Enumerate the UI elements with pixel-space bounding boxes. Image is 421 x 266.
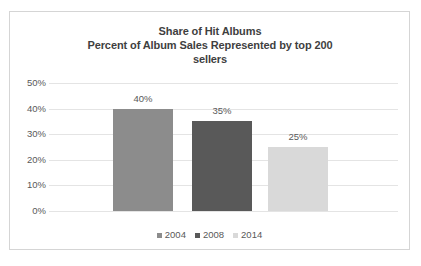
y-axis-tick-label: 0% — [10, 206, 46, 216]
legend-item-2004[interactable]: 2004 — [157, 230, 186, 240]
y-axis: 0%10%20%30%40%50% — [10, 72, 46, 222]
legend-item-2014[interactable]: 2014 — [233, 230, 262, 240]
y-axis-tick-label: 20% — [10, 155, 46, 165]
legend-item-label: 2004 — [165, 230, 186, 240]
bar-value-label-2008: 35% — [192, 105, 252, 116]
legend-item-label: 2014 — [241, 230, 262, 240]
y-axis-tick-label: 50% — [10, 78, 46, 88]
bar-2008[interactable] — [192, 121, 252, 211]
y-axis-tick-label: 10% — [10, 180, 46, 190]
plot-area: 40%35%25% — [49, 72, 398, 222]
square-marker — [195, 233, 200, 238]
bar-group: 40%35%25% — [49, 72, 398, 222]
legend-item-2008[interactable]: 2008 — [195, 230, 224, 240]
bar-value-label-2014: 25% — [268, 131, 328, 142]
chart-title-line-2: Percent of Album Sales Represented by to… — [32, 38, 388, 52]
chart-title-line-3: sellers — [32, 52, 388, 66]
chart-title: Share of Hit Albums Percent of Album Sal… — [32, 24, 388, 66]
chart-legend: 200420082014 — [10, 230, 409, 240]
y-axis-tick-label: 30% — [10, 129, 46, 139]
chart-title-line-1: Share of Hit Albums — [32, 24, 388, 38]
chart-frame: Share of Hit Albums Percent of Album Sal… — [9, 11, 410, 250]
bar-2014[interactable] — [268, 147, 328, 211]
y-axis-tick-label: 40% — [10, 104, 46, 114]
square-marker — [233, 233, 238, 238]
bar-2004[interactable] — [113, 109, 173, 211]
square-marker — [157, 233, 162, 238]
bar-value-label-2004: 40% — [113, 93, 173, 104]
legend-item-label: 2008 — [203, 230, 224, 240]
